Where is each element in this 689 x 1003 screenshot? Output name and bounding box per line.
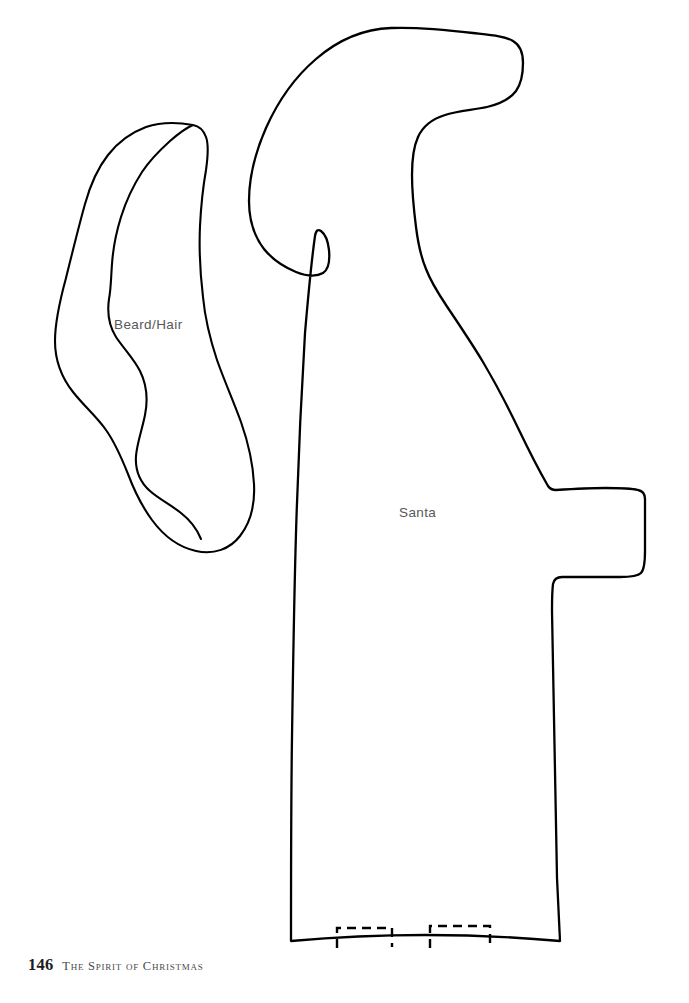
beard-hair-outline [55,123,254,552]
piece-label-santa: Santa [399,505,436,520]
beard-hair-inner-contour [108,299,201,539]
footer-book-title: The Spirit of Christmas [62,959,203,974]
footer-page-number: 146 [28,955,53,975]
pattern-page: Beard/Hair Santa 146 The Spirit of Chris… [0,0,689,1003]
santa-outline [249,28,645,941]
pattern-artwork [0,0,689,1003]
piece-label-beard-hair: Beard/Hair [114,317,183,332]
page-footer: 146 The Spirit of Christmas [28,955,203,975]
